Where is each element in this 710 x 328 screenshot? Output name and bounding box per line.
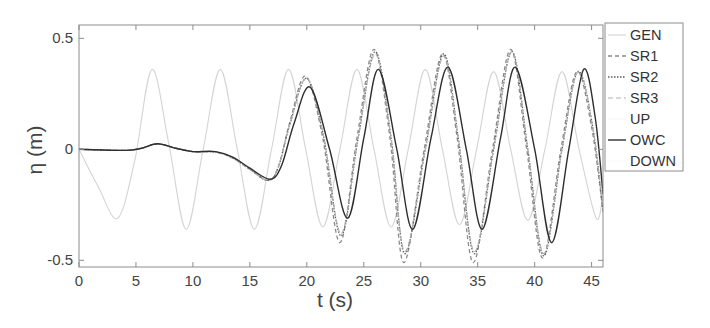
legend-label: DOWN [630,153,676,169]
x-tick-label: 15 [242,272,259,289]
y-axis-label: η (m) [23,126,46,175]
legend-label: UP [630,111,650,127]
y-tick-label: 0 [65,140,73,157]
legend-label: OWC [630,132,665,148]
y-tick-label: 0.5 [52,29,73,46]
x-tick-label: 35 [469,272,486,289]
x-tick-label: 45 [583,272,600,289]
x-tick-label: 10 [185,272,202,289]
x-tick-label: 25 [355,272,372,289]
series-layer [79,49,603,262]
legend-label: GEN [630,27,661,43]
x-tick-label: 20 [298,272,315,289]
x-tick-label: 0 [75,272,83,289]
legend-label: SR3 [630,90,658,106]
x-axis-label: t (s) [317,288,353,311]
x-tick-label: 30 [412,272,429,289]
plot-area: 051015202530354045-0.500.5 [47,25,603,289]
ticks-layer: 051015202530354045-0.500.5 [47,25,603,289]
legend-label: SR2 [630,69,658,85]
legend-label: SR1 [630,48,658,64]
legend: GENSR1SR2SR3UPOWCDOWN [605,23,683,171]
x-tick-label: 5 [132,272,140,289]
x-tick-label: 40 [526,272,543,289]
line-chart: 051015202530354045-0.500.5 t (s) η (m) G… [0,0,710,328]
y-tick-label: -0.5 [47,251,73,268]
